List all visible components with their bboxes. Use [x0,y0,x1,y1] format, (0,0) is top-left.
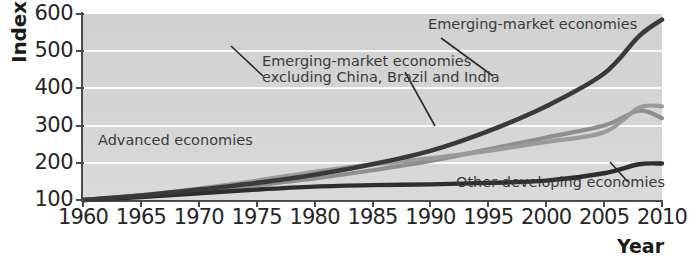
y-axis-tick-label: 400 [21,75,73,99]
y-axis-tick-label: 300 [21,113,73,137]
y-axis-tick-label: 500 [21,38,73,62]
x-axis-title: Year [617,235,664,257]
annotation-advanced-economies: Advanced economies [98,133,253,148]
y-axis-tick-label: 600 [21,1,73,25]
annotation-emerging-excluding-line1: Emerging-market economies [262,54,471,69]
annotation-emerging-excluding-line2: excluding China, Brazil and India [262,70,500,85]
annotation-other-developing-economies: Other developing economies [456,175,665,190]
annotation-leader-lines [83,14,662,224]
leader-advanced-economies [231,46,263,76]
annotation-emerging-market-economies: Emerging-market economies [428,17,637,32]
y-axis-tick-label: 200 [21,150,73,174]
